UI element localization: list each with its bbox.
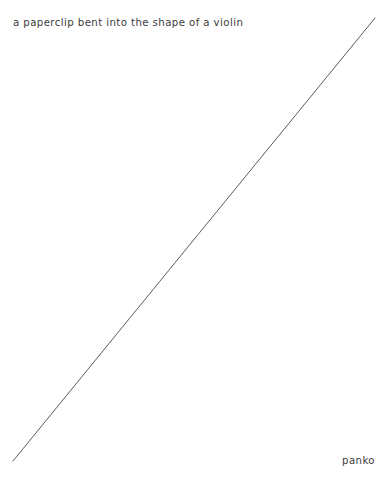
- line-drawing-artwork: [0, 0, 385, 498]
- drawing-page: a paperclip bent into the shape of a vio…: [0, 0, 385, 498]
- diagonal-line: [13, 18, 375, 461]
- artist-signature: panko: [342, 454, 375, 467]
